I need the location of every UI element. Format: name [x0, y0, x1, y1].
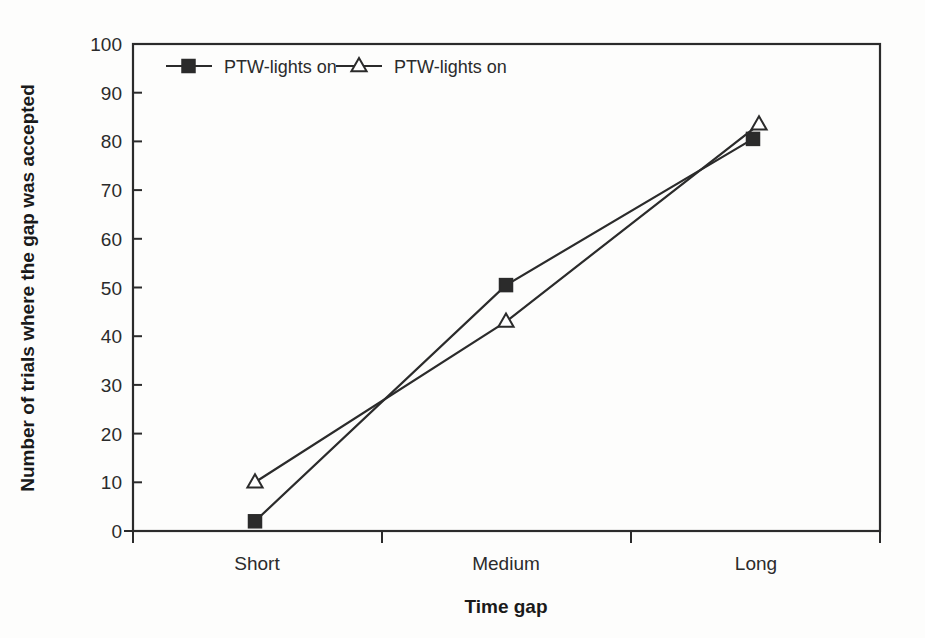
x-axis-ticks: [133, 531, 880, 543]
x-tick-label-long: Long: [735, 553, 777, 574]
x-axis-tick-labels: Short Medium Long: [234, 553, 777, 574]
y-tick-label: 0: [111, 521, 122, 542]
chart-legend: PTW-lights on PTW-lights on: [166, 57, 507, 77]
legend-entry-1[interactable]: PTW-lights on: [166, 57, 337, 77]
y-axis-title: Number of trials where the gap was accep…: [17, 84, 38, 492]
y-tick-label: 30: [101, 375, 122, 396]
data-point-marker-triangle: [751, 116, 766, 129]
legend-entry-2[interactable]: PTW-lights on: [336, 57, 507, 77]
x-tick-label-medium: Medium: [472, 553, 540, 574]
data-point-marker-square: [500, 279, 513, 292]
open-triangle-marker-icon: [351, 58, 366, 71]
y-tick-label: 20: [101, 424, 122, 445]
y-tick-label: 40: [101, 326, 122, 347]
data-point-marker-square: [249, 515, 262, 528]
legend-label-1: PTW-lights on: [224, 57, 337, 77]
legend-label-2: PTW-lights on: [394, 57, 507, 77]
data-point-marker-triangle: [247, 474, 262, 487]
y-tick-label: 10: [101, 472, 122, 493]
y-tick-label: 90: [101, 83, 122, 104]
chart-figure: 100 90 80 70 60 50 40 30 20 10 0 Short M…: [0, 0, 925, 638]
y-tick-label: 50: [101, 278, 122, 299]
series-markers-square: [249, 132, 760, 527]
y-tick-label: 80: [101, 131, 122, 152]
x-tick-label-short: Short: [234, 553, 280, 574]
data-point-marker-triangle: [498, 314, 513, 327]
y-tick-label: 100: [90, 34, 122, 55]
y-tick-label: 70: [101, 180, 122, 201]
filled-square-marker-icon: [182, 60, 195, 73]
data-point-marker-square: [747, 132, 760, 145]
line-chart: 100 90 80 70 60 50 40 30 20 10 0 Short M…: [0, 0, 925, 638]
y-axis-tick-labels: 100 90 80 70 60 50 40 30 20 10 0: [90, 34, 122, 542]
series-markers-triangle: [247, 116, 766, 487]
series-line-ptw-lights-on-square: [255, 139, 753, 521]
series-line-ptw-lights-on-triangle: [255, 124, 759, 482]
x-axis-title: Time gap: [464, 596, 547, 617]
y-tick-label: 60: [101, 229, 122, 250]
